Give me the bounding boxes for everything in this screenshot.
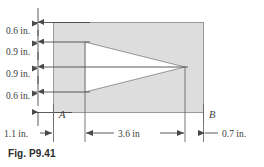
dimension-label-vertical-4: 0.6 in.	[6, 92, 30, 102]
dimension-label-vertical-2: 0.9 in.	[6, 48, 30, 58]
point-label-b: B	[209, 110, 215, 121]
dimension-label-vertical-1: 0.6 in.	[6, 27, 30, 37]
figure-container: 0.6 in. 0.9 in. 0.9 in. 0.6 in. 1.1 in. …	[0, 0, 264, 167]
point-label-a: A	[59, 110, 65, 121]
dimension-label-horizontal-2: 3.6 in	[118, 130, 140, 140]
dimension-label-vertical-3: 0.9 in.	[6, 70, 30, 80]
dimension-label-horizontal-1: 1.1 in.	[4, 130, 28, 140]
dimension-label-horizontal-3: 0.7 in.	[222, 130, 246, 140]
figure-drawing	[0, 0, 264, 167]
figure-caption: Fig. P9.41	[8, 148, 56, 159]
